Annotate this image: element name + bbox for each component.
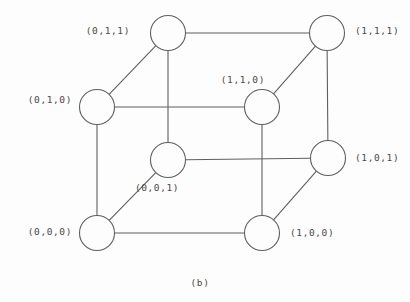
node-label: (1,0,0) — [290, 228, 334, 238]
graph-node[interactable] — [245, 90, 280, 125]
node-label: (1,1,1) — [355, 26, 399, 36]
graph-edge — [274, 46, 316, 94]
graph-node[interactable] — [310, 16, 345, 51]
graph-node[interactable] — [151, 143, 186, 178]
graph-edge — [327, 51, 328, 141]
figure-caption: (b) — [191, 277, 210, 288]
graph-edge — [274, 171, 317, 220]
graph-node[interactable] — [245, 216, 280, 251]
graph-edge — [109, 46, 156, 95]
edge-layer — [97, 33, 328, 233]
graph-node[interactable] — [311, 141, 346, 176]
graph-node[interactable] — [80, 90, 115, 125]
graph-node[interactable] — [151, 16, 186, 51]
node-label: (0,1,1) — [86, 26, 130, 36]
cube-graph-figure: (0,1,1)(1,1,1)(0,1,0)(1,1,0)(0,0,1)(1,0,… — [0, 0, 410, 302]
node-label: (0,1,0) — [28, 95, 72, 105]
graph-edge — [186, 158, 311, 160]
cube-graph-canvas — [0, 0, 410, 302]
node-label: (0,0,1) — [135, 183, 179, 193]
node-label: (0,0,0) — [28, 227, 72, 237]
node-layer — [80, 16, 346, 251]
node-label: (1,0,1) — [355, 153, 399, 163]
graph-edge — [109, 173, 156, 221]
graph-node[interactable] — [80, 216, 115, 251]
node-label: (1,1,0) — [221, 75, 265, 85]
